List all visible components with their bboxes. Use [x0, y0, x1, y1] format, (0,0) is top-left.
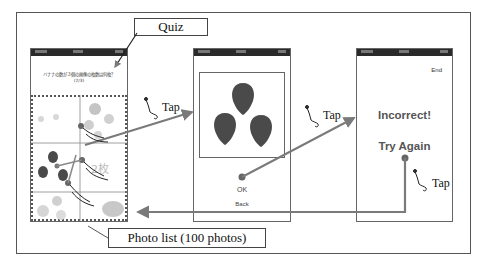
photo-grid[interactable]: 2枚 — [31, 95, 127, 221]
photo-list-callout: Photo list (100 photos) — [108, 228, 266, 248]
status-bar — [31, 49, 127, 56]
grid-count-overlay: 2枚 — [91, 162, 109, 176]
back-button[interactable]: Back — [194, 201, 290, 207]
try-again-label: Try Again — [379, 140, 431, 152]
end-button[interactable]: End — [431, 67, 442, 73]
status-bar — [194, 49, 290, 56]
photo-list-callout-label: Photo list (100 photos) — [128, 230, 247, 246]
tap-label-3: Tap — [432, 176, 450, 191]
end-label: End — [431, 67, 442, 73]
ok-button[interactable]: OK — [194, 186, 290, 193]
quiz-progress: (2/3) — [33, 78, 125, 84]
enlarged-photo — [199, 72, 285, 158]
tap-label-1: Tap — [162, 100, 180, 115]
tap-label-2: Tap — [323, 108, 341, 123]
phone-quiz-screen: バナナの数が３個の画像の枚数は何枚？ (2/3) 2枚 — [30, 48, 128, 222]
quiz-callout-label: Quiz — [158, 19, 183, 35]
ok-label: OK — [237, 186, 247, 193]
try-again-button[interactable]: Try Again — [357, 140, 452, 152]
quiz-callout: Quiz — [134, 18, 208, 36]
phone-result-screen: End Incorrect! Try Again — [356, 48, 453, 222]
status-bar — [357, 49, 452, 56]
phone-image-screen: OK Back — [193, 48, 291, 222]
back-label: Back — [235, 201, 248, 207]
result-text: Incorrect! — [357, 109, 452, 121]
